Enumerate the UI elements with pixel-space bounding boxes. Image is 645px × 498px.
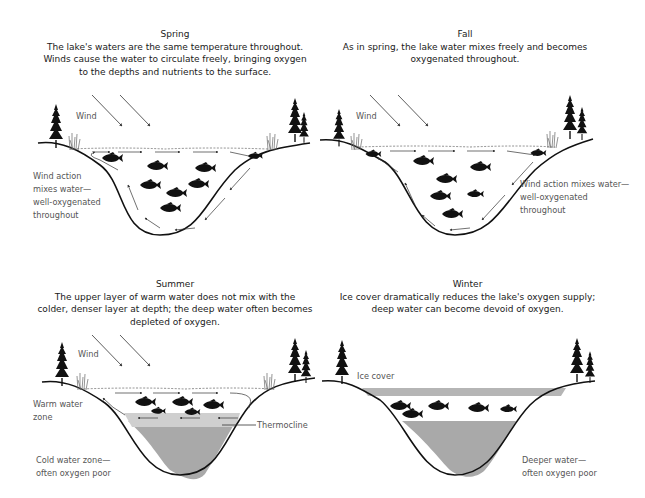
cold-water-zone [128, 421, 236, 479]
circulation-arrows-icon [378, 151, 535, 230]
season-heading: Spring [20, 28, 330, 41]
tree-icon [585, 351, 595, 383]
fish-icon [436, 173, 457, 183]
wind-arrow-icon [120, 95, 150, 126]
fish-icon [468, 402, 489, 412]
thermocline-label: Thermocline [257, 419, 308, 432]
fish-icon [390, 400, 411, 410]
fish-icon [203, 399, 224, 409]
fall-title-block: Fall As in spring, the lake water mixes … [330, 28, 600, 66]
description-line: oxygenated throughout. [330, 53, 600, 66]
description-line: As in spring, the lake water mixes freel… [330, 41, 600, 54]
cold-water-label: Cold water zone— often oxygen poor [36, 454, 111, 480]
season-heading: Winter [330, 278, 605, 291]
tree-icon [288, 338, 302, 382]
wind-label: Wind [76, 110, 97, 123]
wind-arrow-icon [398, 95, 428, 126]
ice-cover-layer [362, 388, 566, 396]
spring-side-label: Wind action mixes water— well-oxygenated… [33, 170, 101, 222]
fish-icon [135, 396, 156, 406]
description-line: Ice cover dramatically reduces the lake'… [330, 291, 605, 304]
description-line: The lake's waters are the same temperatu… [20, 41, 330, 54]
wind-label: Wind [356, 110, 377, 123]
tree-icon [570, 338, 584, 382]
fish-icon [195, 162, 216, 172]
ice-cover-label: Ice cover [357, 370, 394, 383]
fish-icon [160, 202, 181, 212]
description-line: deep water can become devoid of oxygen. [330, 303, 605, 316]
tree-icon [335, 340, 349, 384]
fish-icon [248, 152, 263, 159]
reeds-icon [267, 133, 278, 150]
winter-title-block: Winter Ice cover dramatically reduces th… [330, 278, 605, 316]
tree-icon [299, 112, 309, 143]
fish-icon [366, 150, 382, 158]
fish-icon [428, 400, 449, 410]
fish-icon [151, 407, 166, 414]
fish-icon [140, 179, 161, 189]
fish-icon [402, 408, 423, 418]
fish-icon [102, 152, 123, 162]
description-line: Winds cause the water to circulate freel… [20, 53, 330, 66]
fish-icon [413, 155, 434, 165]
fish-icon [500, 404, 517, 412]
description-line: colder, denser layer at depth; the deep … [20, 303, 330, 316]
reeds-icon [351, 133, 362, 150]
description-line: depleted of oxygen. [20, 316, 330, 329]
fish-icon [470, 161, 491, 171]
fish-icon [467, 189, 484, 197]
tree-icon [563, 95, 577, 139]
fish-icon [442, 208, 463, 218]
fish-icon [166, 187, 187, 197]
tree-icon [55, 342, 69, 386]
fish-icon [172, 396, 193, 406]
deeper-water-label: Deeper water— often oxygen poor [522, 454, 597, 480]
description-line: to the depths and nutrients to the surfa… [20, 66, 330, 79]
summer-title-block: Summer The upper layer of warm water doe… [20, 278, 330, 328]
fall-side-label: Wind action mixes water— well-oxygenated… [520, 178, 629, 217]
season-heading: Fall [330, 28, 600, 41]
fish-icon [188, 178, 209, 188]
tree-icon [577, 107, 588, 140]
wind-label: Wind [78, 348, 99, 361]
wind-arrow-icon [120, 335, 150, 366]
season-heading: Summer [20, 278, 330, 291]
fish-icon [430, 190, 451, 200]
warm-water-label: Warm water zone [33, 398, 83, 424]
fish-icon [147, 160, 168, 170]
tree-icon [49, 104, 63, 148]
spring-title-block: Spring The lake's waters are the same te… [20, 28, 330, 78]
description-line: The upper layer of warm water does not m… [20, 291, 330, 304]
reeds-icon [547, 131, 558, 148]
reeds-icon [264, 373, 275, 390]
